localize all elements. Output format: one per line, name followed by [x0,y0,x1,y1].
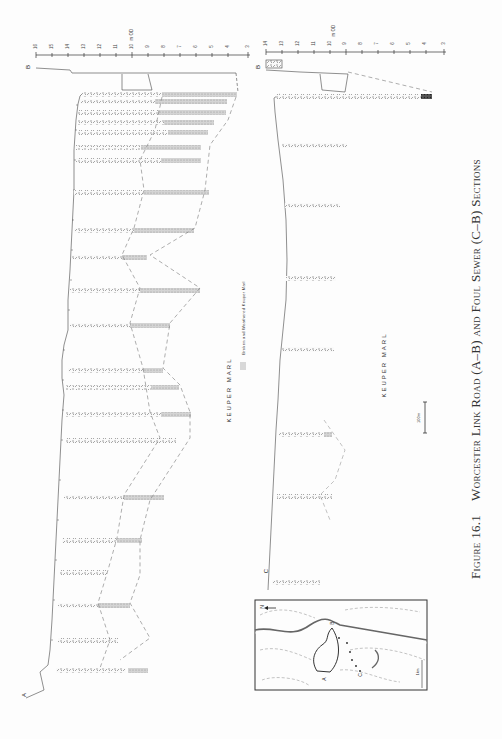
upper-tick-10: 10 [129,44,134,49]
upper-elevation-axis [36,52,250,58]
inset-label-c: C [357,673,363,677]
lower-tick-10: 10 [327,41,332,46]
lower-tick-11: 11 [311,41,316,46]
lower-tick-7: 7 [374,42,379,45]
upper-tick-12: 12 [97,44,102,49]
upper-tick-7: 7 [177,45,182,48]
lower-tick-4: 4 [422,42,427,45]
figure-title: Worcester Link Road (A–B) and Foul Sewer… [468,159,483,501]
lower-geology-label: KEUPER MARL [381,332,387,397]
lower-boreholes [272,94,432,585]
inset-label-b: B [329,621,335,624]
upper-tick-6: 6 [193,45,198,48]
lower-tick-13: 13 [279,41,284,46]
inset-label-a: A [321,677,327,680]
lower-ground-profile [268,94,287,590]
upper-tick-8: 8 [161,45,166,48]
upper-tick-15: 15 [49,44,54,49]
lower-b-connector [266,60,432,92]
scale-bar-label: 100m [416,413,421,423]
lower-tick-12: 12 [295,41,300,46]
inset-north-label: N [259,605,265,609]
legend-swatch [240,362,246,370]
upper-geology-label: KEUPER MARL [226,357,232,422]
point-a-label: A [21,693,27,697]
point-b-lower-label: B [255,65,261,69]
upper-axis-unit: m OD [129,29,134,41]
upper-boreholes [56,92,237,673]
upper-dashed-interfaces [98,97,236,668]
point-b-upper-label: B [25,65,31,69]
upper-tick-5: 5 [209,45,214,48]
legend-label: Broken and Weathered Keuper Marl [241,281,246,355]
lower-elevation-axis [266,49,446,55]
inset-scale-label: 1km [416,669,420,676]
scale-bar [423,402,427,433]
upper-tick-4: 4 [225,45,230,48]
point-c-label: C [263,569,269,573]
lower-tick-14: 14 [263,41,268,46]
figure-caption: Figure 16.1Worcester Link Road (A–B) and… [468,159,484,579]
upper-tick-3: 3 [245,45,250,48]
upper-tick-16: 16 [33,44,38,49]
document-page: 16 15 14 13 12 11 10 9 8 7 6 5 4 3 m OD … [0,0,502,739]
upper-tick-9: 9 [145,45,150,48]
upper-tick-11: 11 [113,44,118,49]
lower-axis-unit: m OD [331,25,336,37]
lower-tick-6: 6 [390,42,395,45]
lower-tick-3: 3 [441,42,446,45]
lower-tick-8: 8 [358,42,363,45]
lower-tick-9: 9 [342,42,347,45]
section-drawing [0,0,502,739]
lower-tick-5: 5 [406,42,411,45]
upper-b-connector [36,68,238,92]
figure-number: Figure 16.1 [468,515,483,579]
inset-map [255,600,427,690]
upper-tick-13: 13 [81,44,86,49]
upper-tick-14: 14 [65,44,70,49]
